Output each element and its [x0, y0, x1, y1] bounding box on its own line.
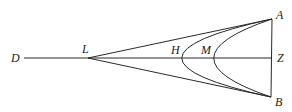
line-lb [88, 58, 271, 97]
point-label-d: D [10, 51, 20, 65]
line-la [88, 19, 272, 58]
point-label-z: Z [277, 51, 284, 65]
point-label-a: A [275, 8, 284, 22]
point-label-h: H [170, 43, 181, 57]
geometric-diagram: D L H M A Z B [0, 0, 292, 112]
line-ab [271, 19, 272, 97]
point-label-l: L [81, 42, 89, 56]
point-label-b: B [275, 95, 283, 109]
point-label-m: M [200, 43, 212, 57]
